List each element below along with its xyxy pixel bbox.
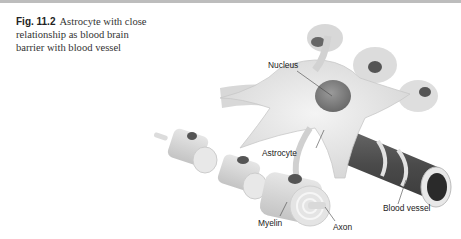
figure-caption: Fig. 11.2Astrocyte with close relationsh… <box>16 15 148 54</box>
label-axon: Axon <box>333 222 352 232</box>
label-myelin: Myelin <box>258 218 282 228</box>
label-astrocyte: Astrocyte <box>262 148 297 158</box>
label-blood-vessel: Blood vessel <box>383 203 431 213</box>
nucleus <box>315 80 351 112</box>
figure-number: Fig. 11.2 <box>16 16 55 27</box>
label-nucleus: Nucleus <box>268 60 298 70</box>
top-rule <box>0 0 461 3</box>
astrocyte-illustration: Nucleus Astrocyte Blood vessel Myelin Ax… <box>150 8 461 239</box>
